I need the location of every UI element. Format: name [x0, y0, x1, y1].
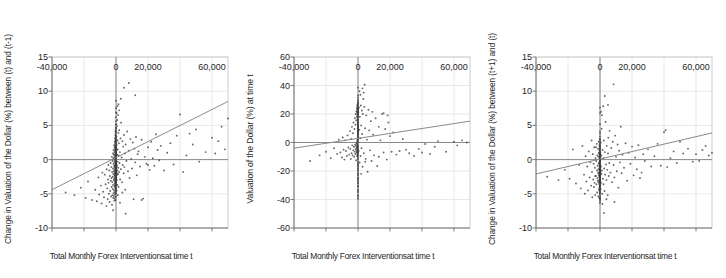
y-tick-label: 5 [527, 121, 532, 130]
y-tick-label: -10 [519, 224, 532, 233]
plot-area-2: -60-40-200204060 -40,000020,00060,000 [294, 57, 470, 228]
x-tick-label: 20,000 [376, 63, 404, 72]
chart-panel-3: Change in Valuation of the Dollar (%) be… [484, 0, 726, 278]
y-tick-label: 10 [522, 87, 532, 96]
y-tick-label: 0 [527, 155, 532, 164]
plot-area-1: -10-5051015 -40,000020,00060,000 [52, 57, 228, 228]
y-tick-label: 20 [280, 110, 290, 119]
y-tick-label: -10 [35, 224, 48, 233]
y-tick-label: 10 [38, 87, 48, 96]
y-tick-label: -40 [277, 195, 290, 204]
x-tick-label: 60,000 [198, 63, 226, 72]
x-tick-label: 20,000 [618, 63, 646, 72]
chart-panel-1: Change in Valuation of the Dollar (%) be… [0, 0, 242, 278]
x-tick-label: 0 [597, 63, 602, 72]
y-tick-label: 15 [38, 53, 48, 62]
y-tick-label: 0 [43, 155, 48, 164]
y-tick-label: -5 [524, 189, 532, 198]
x-tick-label: 60,000 [440, 63, 468, 72]
x-tick-label: 60,000 [682, 63, 710, 72]
y-tick-label: -5 [40, 189, 48, 198]
scatter-svg-2 [294, 57, 470, 228]
scatter-svg-1 [52, 57, 228, 228]
y-tick-label: 5 [43, 121, 48, 130]
x-tick-label: -40,000 [279, 63, 310, 72]
chart-panel-2: Valuation of the Dollar (%) at time t -6… [242, 0, 484, 278]
x-tick-label: -40,000 [37, 63, 68, 72]
scatter-svg-3 [536, 57, 712, 228]
y-axis-title-2: Valuation of the Dollar (%) at time t [242, 0, 258, 278]
x-tick-label: -40,000 [521, 63, 552, 72]
y-tick-label: 60 [280, 53, 290, 62]
x-tick-label: 0 [355, 63, 360, 72]
y-tick-label: -60 [277, 224, 290, 233]
y-tick-label: -20 [277, 167, 290, 176]
y-tick-label: 15 [522, 53, 532, 62]
x-tick-label: 0 [113, 63, 118, 72]
y-tick-label: 40 [280, 81, 290, 90]
x-axis-title-1: Total Monthly Forex Interventionsat time… [0, 251, 242, 261]
x-axis-title-2: Total Monthly Forex Interventionsat time… [242, 251, 484, 261]
figure-container: Change in Valuation of the Dollar (%) be… [0, 0, 726, 278]
y-tick-label: 0 [285, 138, 290, 147]
x-axis-title-3: Total Monthly Forex Interventionsat time… [484, 251, 726, 261]
y-axis-title-1: Change in Valuation of the Dollar (%) be… [0, 0, 16, 278]
y-axis-title-3: Change in Valuation of the Dollar (%) be… [484, 0, 500, 278]
x-tick-label: 20,000 [134, 63, 162, 72]
plot-area-3: -10-5051015 -40,000020,00060,000 [536, 57, 712, 228]
